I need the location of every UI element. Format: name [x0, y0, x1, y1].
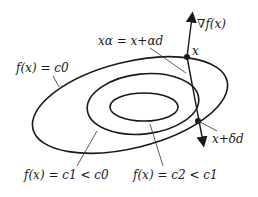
outer-level-curve — [23, 39, 238, 171]
leader-x-alpha — [150, 48, 186, 73]
leader-middle — [77, 131, 97, 166]
inner-level-curve — [110, 93, 178, 121]
point-x-label: x — [192, 44, 199, 58]
leader-x-delta — [200, 122, 217, 131]
point-x-delta — [195, 118, 201, 124]
leader-outer — [53, 76, 59, 87]
middle-level-label: f(x) = c1 < c0 — [23, 168, 109, 182]
outer-level-label: f(x) = c0 — [15, 61, 69, 75]
x-alpha-label: xα = x+αd — [98, 34, 163, 48]
descent-arrow — [187, 57, 203, 142]
point-x — [184, 54, 190, 60]
level-set-diagram: ∇f(x) xα = x+αd x f(x) = c0 f(x) = c1 < … — [0, 0, 258, 197]
middle-level-curve — [84, 68, 202, 139]
leader-inner — [150, 124, 163, 166]
inner-level-label: f(x) = c2 < c1 — [132, 168, 218, 182]
gradient-label: ∇f(x) — [197, 17, 226, 31]
x-delta-label: x+δd — [212, 132, 244, 146]
